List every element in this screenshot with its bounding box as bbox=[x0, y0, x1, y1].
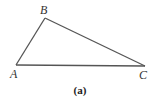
triangle-diagram: A B C (a) bbox=[0, 0, 157, 104]
vertex-label-b: B bbox=[40, 3, 48, 17]
figure-caption: (a) bbox=[74, 84, 87, 97]
vertex-label-a: A bbox=[9, 67, 18, 81]
edge-bc bbox=[45, 18, 145, 66]
edge-ab bbox=[16, 18, 45, 65]
vertex-label-c: C bbox=[139, 68, 148, 82]
edge-ac bbox=[16, 65, 145, 66]
